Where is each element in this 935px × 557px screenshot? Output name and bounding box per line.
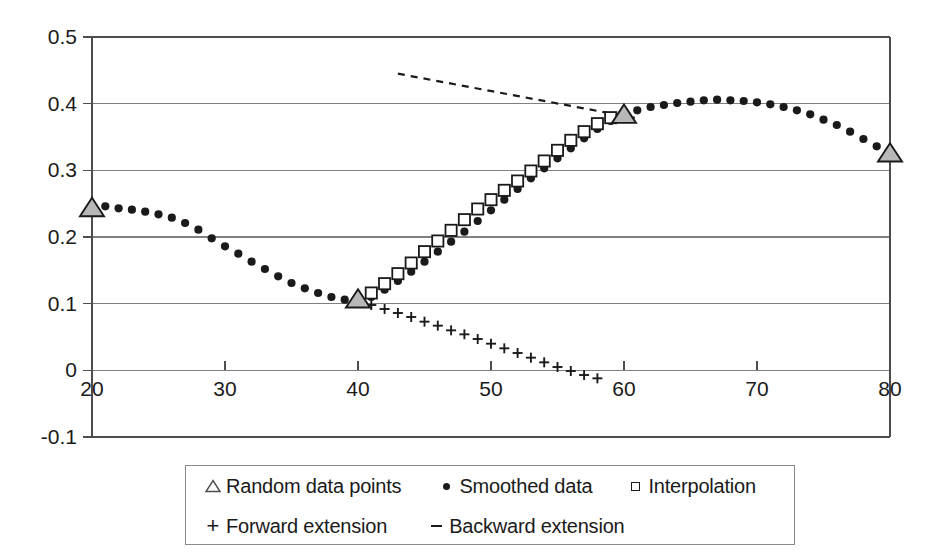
y-axis-labels: -0.100.10.20.30.40.5 xyxy=(41,25,77,448)
dot-icon xyxy=(433,483,459,490)
x-tick-marks xyxy=(225,361,757,370)
svg-text:0: 0 xyxy=(65,358,77,381)
svg-text:0.4: 0.4 xyxy=(48,92,78,115)
triangle-icon xyxy=(200,479,226,493)
svg-text:-0.1: -0.1 xyxy=(41,425,77,448)
svg-text:0.2: 0.2 xyxy=(48,225,77,248)
legend-entry-random-data-points: Random data points xyxy=(200,466,401,506)
svg-text:0.3: 0.3 xyxy=(48,158,77,181)
svg-text:30: 30 xyxy=(213,377,236,400)
series-backward-extension xyxy=(398,74,637,119)
svg-text:20: 20 xyxy=(80,377,103,400)
svg-text:0.5: 0.5 xyxy=(48,25,77,48)
dash-icon xyxy=(423,525,449,528)
svg-text:60: 60 xyxy=(612,377,635,400)
svg-text:50: 50 xyxy=(479,377,502,400)
legend-entry-backward-extension: Backward extension xyxy=(423,506,624,546)
plus-icon: + xyxy=(200,515,226,537)
legend-entry-interpolation: Interpolation xyxy=(622,466,755,506)
svg-text:70: 70 xyxy=(745,377,768,400)
legend-row-1: Random data points Smoothed data Interpo… xyxy=(186,466,794,506)
legend-row-2: + Forward extension Backward extension xyxy=(186,506,794,546)
chart-legend: Random data points Smoothed data Interpo… xyxy=(185,465,795,545)
legend-label: Smoothed data xyxy=(459,475,592,498)
legend-entry-smoothed-data: Smoothed data xyxy=(433,466,592,506)
legend-label: Backward extension xyxy=(449,515,624,538)
svg-text:0.1: 0.1 xyxy=(48,292,77,315)
svg-text:80: 80 xyxy=(878,377,901,400)
x-axis-labels: 20304050607080 xyxy=(80,377,901,400)
legend-label: Interpolation xyxy=(648,475,755,498)
legend-entry-forward-extension: + Forward extension xyxy=(200,506,387,546)
chart-figure: -0.100.10.20.30.40.5 20304050607080 Rand… xyxy=(0,0,935,557)
svg-text:40: 40 xyxy=(346,377,369,400)
square-icon xyxy=(622,482,648,491)
legend-label: Forward extension xyxy=(226,515,387,538)
legend-label: Random data points xyxy=(226,475,401,498)
series-interpolation xyxy=(366,112,617,299)
